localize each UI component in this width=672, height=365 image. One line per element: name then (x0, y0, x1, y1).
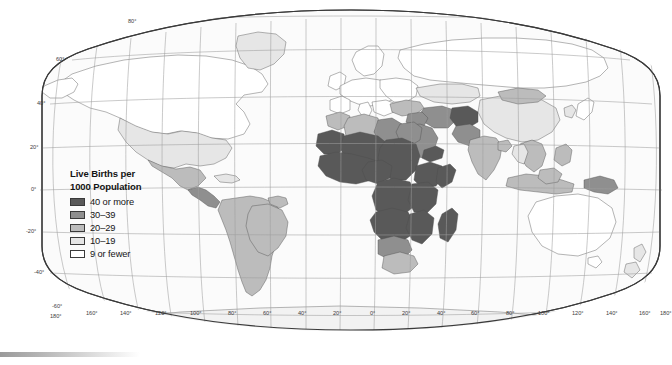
legend-swatch-30-39 (70, 211, 85, 220)
lon-label-0: 0° (370, 310, 375, 316)
lon-label-180w: 180° (50, 313, 62, 319)
legend-item-10-19: 10–19 (70, 235, 188, 246)
lon-label-140e: 140° (606, 310, 618, 316)
lon-label-140w: 140° (120, 310, 132, 316)
lon-label-180e: 180° (660, 310, 672, 316)
legend-label-9-or-fewer: 9 or fewer (90, 249, 130, 259)
legend-swatch-10-19 (70, 237, 85, 246)
lon-label-60w: 60° (263, 310, 271, 316)
legend-swatch-20-29 (70, 224, 85, 233)
legend-label-10-19: 10–19 (90, 236, 115, 246)
bottom-gradient-strip (0, 352, 140, 357)
legend-label-20-29: 20–29 (90, 223, 115, 233)
legend-title-line1: Live Births per (70, 168, 188, 181)
lon-label-160e: 160° (639, 310, 651, 316)
map-page: 80° 60° 40° 20° 0° -20° -40° -60° 180° 1… (0, 0, 672, 365)
lon-label-160w: 160° (86, 310, 98, 316)
lat-label-m20: -20° (26, 228, 36, 234)
legend-swatch-40-or-more (70, 198, 85, 207)
legend-item-30-39: 30–39 (70, 209, 188, 220)
lon-label-20w: 20° (333, 310, 341, 316)
lat-label-20: 20° (30, 144, 38, 150)
lon-label-80w: 80° (228, 310, 236, 316)
lon-label-120w: 120° (155, 310, 167, 316)
lon-label-40e: 40° (437, 310, 445, 316)
legend-label-40-or-more: 40 or more (90, 197, 134, 207)
legend-label-30-39: 30–39 (90, 210, 115, 220)
lon-label-100e: 100° (538, 310, 550, 316)
lon-label-120e: 120° (572, 310, 584, 316)
lon-label-20e: 20° (402, 310, 410, 316)
lat-label-40: 40° (37, 100, 45, 106)
lat-label-60: 60° (56, 56, 64, 62)
legend-item-20-29: 20–29 (70, 222, 188, 233)
lat-label-m40: -40° (34, 269, 44, 275)
legend-swatch-9-or-fewer (70, 250, 85, 259)
lat-label-80: 80° (128, 18, 136, 24)
legend-item-9-or-fewer: 9 or fewer (70, 248, 188, 259)
legend-items: 40 or more 30–39 20–29 10–19 9 or fewer (70, 196, 188, 259)
lat-label-0: 0° (31, 186, 36, 192)
lon-label-60e: 60° (471, 310, 479, 316)
lon-label-100w: 100° (190, 310, 202, 316)
legend-title-line2: 1000 Population (70, 181, 188, 194)
legend-item-40-or-more: 40 or more (70, 196, 188, 207)
lon-label-80e: 80° (506, 310, 514, 316)
lat-label-m60: -60° (52, 303, 62, 309)
lon-label-40w: 40° (298, 310, 306, 316)
map-legend: Live Births per 1000 Population 40 or mo… (70, 168, 188, 261)
